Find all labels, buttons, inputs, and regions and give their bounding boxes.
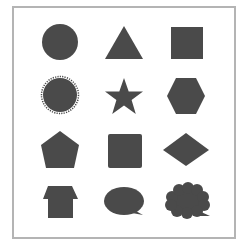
sunburst-shape[interactable] [42, 77, 79, 114]
thought-cloud-shape[interactable] [165, 182, 210, 219]
diamond-shape[interactable] [163, 133, 209, 166]
pentagon-shape[interactable] [41, 131, 79, 168]
triangle-shape[interactable] [105, 26, 143, 59]
speech-bubble-shape[interactable] [104, 187, 144, 215]
up-arrow-house-shape[interactable] [43, 186, 78, 218]
square-shape[interactable] [171, 27, 203, 59]
star-shape[interactable] [105, 78, 143, 114]
circle-shape[interactable] [42, 24, 78, 60]
rounded-square-shape[interactable] [108, 134, 142, 168]
shape-grid [0, 0, 244, 249]
hexagon-shape[interactable] [167, 78, 205, 114]
